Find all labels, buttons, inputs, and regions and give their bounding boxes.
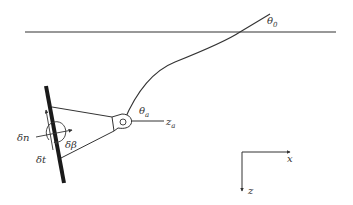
cable-curve xyxy=(124,14,270,121)
delta-n-label: δn xyxy=(17,132,29,143)
delta-beta-label: δβ xyxy=(65,139,77,150)
towed-body-diagram: θ0 za θa δn δβ δt x z xyxy=(0,0,353,205)
bridle-upper xyxy=(52,107,112,117)
za-label: za xyxy=(165,116,175,130)
z-axis-label: z xyxy=(247,185,254,196)
delta-t-label: δt xyxy=(36,154,47,165)
theta0-label: θ0 xyxy=(267,15,278,29)
theta-a-label: θa xyxy=(139,105,149,119)
x-axis-label: x xyxy=(287,153,293,164)
attachment-block xyxy=(112,114,132,131)
